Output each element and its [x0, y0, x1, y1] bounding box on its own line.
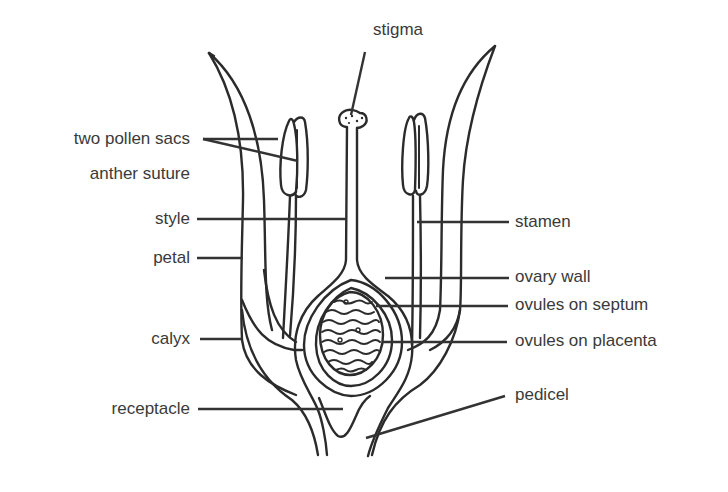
- label-ovules-on-placenta: ovules on placenta: [515, 331, 657, 351]
- label-stigma: stigma: [373, 20, 423, 40]
- leader-stigma: [351, 52, 365, 115]
- label-two-pollen-sacs: two pollen sacs: [74, 129, 190, 149]
- label-pedicel: pedicel: [515, 385, 569, 405]
- flower-section-diagram: [0, 0, 728, 492]
- label-stamen: stamen: [515, 212, 571, 232]
- left-stamen: [280, 118, 307, 339]
- label-ovary-wall: ovary wall: [515, 267, 591, 287]
- label-ovules-on-septum: ovules on septum: [515, 295, 648, 315]
- ovule-texture: [322, 301, 380, 372]
- right-stamen: [402, 114, 428, 345]
- label-receptacle: receptacle: [112, 399, 190, 419]
- right-petal: [372, 46, 495, 455]
- label-petal: petal: [153, 248, 190, 268]
- label-anther-suture: anther suture: [90, 164, 190, 184]
- label-style: style: [155, 209, 190, 229]
- left-petal: [209, 53, 296, 395]
- pistil: [295, 110, 412, 456]
- label-calyx: calyx: [151, 329, 190, 349]
